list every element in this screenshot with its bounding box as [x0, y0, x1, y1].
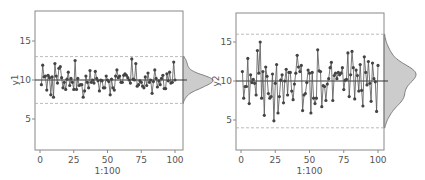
data-point	[130, 57, 133, 60]
data-point	[272, 119, 275, 122]
data-point	[149, 78, 152, 81]
x-tick-label: 100	[166, 155, 183, 165]
marginal-density	[384, 34, 416, 128]
data-point	[368, 82, 371, 85]
data-point	[286, 93, 289, 96]
x-tick-label: 25	[68, 155, 79, 165]
data-point	[129, 82, 132, 85]
data-point	[55, 75, 58, 78]
data-point	[279, 79, 282, 82]
data-point	[264, 65, 267, 68]
data-point	[98, 89, 101, 92]
data-point	[241, 70, 244, 73]
data-point	[168, 71, 171, 74]
data-point	[256, 49, 259, 52]
data-point	[52, 96, 55, 99]
data-point	[103, 86, 106, 89]
data-point	[63, 81, 66, 84]
data-point	[246, 57, 249, 60]
data-point	[140, 81, 143, 84]
data-point	[315, 97, 318, 100]
data-point	[285, 68, 288, 71]
data-point	[331, 99, 334, 102]
x-tick-label: 50	[102, 155, 114, 165]
data-point	[83, 89, 86, 92]
data-point	[144, 75, 147, 78]
data-point	[283, 79, 286, 82]
data-point	[68, 84, 71, 87]
plot-y1: 0255075100510151:100y1	[10, 11, 213, 176]
data-point	[312, 97, 315, 100]
data-point	[305, 81, 308, 84]
data-point	[84, 75, 87, 78]
data-point	[134, 62, 137, 65]
data-point	[110, 78, 113, 81]
data-point	[374, 80, 377, 83]
data-point	[346, 51, 349, 54]
data-point	[137, 83, 140, 86]
data-point	[245, 85, 248, 88]
data-point	[348, 95, 351, 98]
data-point	[330, 61, 333, 64]
data-point	[263, 114, 266, 117]
data-point	[167, 79, 170, 82]
data-point	[65, 78, 68, 81]
data-point	[107, 80, 110, 83]
data-point	[128, 78, 131, 81]
data-point	[160, 77, 163, 80]
x-tick-label: 0	[37, 155, 43, 165]
data-point	[350, 50, 353, 53]
data-point	[44, 75, 47, 78]
y-axis-label: y1	[10, 74, 20, 85]
data-point	[69, 77, 72, 80]
data-point	[259, 40, 262, 43]
x-tick-label: 50	[304, 155, 316, 165]
data-point	[156, 85, 159, 88]
data-point	[292, 98, 295, 101]
data-point	[91, 78, 94, 81]
data-point	[64, 88, 67, 91]
data-point	[296, 54, 299, 57]
data-point	[339, 72, 342, 75]
data-point	[300, 64, 303, 67]
data-point	[172, 61, 175, 64]
data-point	[341, 66, 344, 69]
marginal-density	[183, 57, 213, 104]
data-point	[293, 83, 296, 86]
data-point	[323, 85, 326, 88]
data-point	[360, 89, 363, 92]
data-point	[297, 65, 300, 68]
x-axis-label: 1:100	[297, 166, 323, 176]
data-point	[75, 88, 78, 91]
data-point	[146, 71, 149, 74]
data-point	[298, 70, 301, 73]
data-point	[161, 74, 164, 77]
x-tick-label: 25	[270, 155, 281, 165]
x-tick-label: 0	[238, 155, 244, 165]
data-point	[375, 110, 378, 113]
data-point	[290, 90, 293, 93]
data-point	[364, 71, 367, 74]
data-point	[67, 71, 70, 74]
data-point	[151, 92, 154, 95]
data-point	[74, 59, 77, 62]
data-point	[76, 77, 79, 80]
data-point	[171, 81, 174, 84]
x-tick-label: 75	[136, 155, 147, 165]
data-point	[41, 64, 44, 67]
data-point	[142, 86, 145, 89]
data-point	[265, 75, 268, 78]
data-point	[113, 89, 116, 92]
data-point	[365, 83, 368, 86]
data-point	[249, 73, 252, 76]
data-point	[320, 105, 323, 108]
data-point	[334, 72, 337, 75]
data-point	[101, 79, 104, 82]
y-tick-label: 15	[221, 37, 232, 47]
data-point	[353, 97, 356, 100]
data-point	[281, 73, 284, 76]
data-point	[319, 70, 322, 73]
data-point	[250, 81, 253, 84]
data-point	[371, 62, 374, 65]
data-point	[92, 82, 95, 85]
